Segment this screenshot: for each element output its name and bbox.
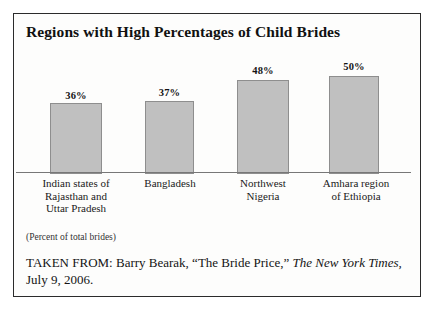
bar-group: 36% (50, 56, 102, 174)
source-publication: The New York Times, (292, 255, 401, 270)
chart-footnote: (Percent of total brides) (26, 232, 116, 242)
source-prefix: TAKEN FROM: Barry Bearak, “The Bride Pri… (26, 255, 292, 270)
category-label: Indian states of Rajasthan and Uttar Pra… (26, 177, 126, 215)
bar-rect (329, 76, 379, 174)
bar-rect (145, 101, 194, 174)
x-axis-baseline (16, 172, 411, 173)
bar-group: 50% (329, 56, 379, 174)
category-label-line: Bangladesh (121, 177, 219, 190)
source-suffix: July 9, 2006. (26, 272, 93, 287)
category-label: Amhara region of Ethiopia (306, 177, 406, 202)
source-attribution: TAKEN FROM: Barry Bearak, “The Bride Pri… (26, 254, 410, 288)
bar-value-label: 48% (237, 65, 289, 76)
bar-rect (237, 80, 289, 174)
bar-group: 37% (145, 56, 194, 174)
figure-title: Regions with High Percentages of Child B… (26, 23, 406, 41)
category-label-line: Rajasthan and (26, 190, 126, 203)
bar-chart-plot-area: 36% 37% 48% 50% (16, 56, 420, 174)
category-label-line: Uttar Pradesh (26, 202, 126, 215)
bar-value-label: 37% (145, 87, 194, 98)
bar-group: 48% (237, 56, 289, 174)
category-label-line: Nigeria (215, 190, 311, 203)
category-label: Northwest Nigeria (215, 177, 311, 202)
category-label: Bangladesh (121, 177, 219, 190)
category-label-line: of Ethiopia (306, 190, 406, 203)
category-label-line: Northwest (215, 177, 311, 190)
category-label-line: Amhara region (306, 177, 406, 190)
category-label-line: Indian states of (26, 177, 126, 190)
bar-value-label: 36% (50, 90, 102, 101)
category-axis-labels: Indian states of Rajasthan and Uttar Pra… (16, 177, 420, 225)
figure-frame: Regions with High Percentages of Child B… (13, 13, 421, 297)
bar-rect (50, 103, 102, 174)
bar-value-label: 50% (329, 61, 379, 72)
